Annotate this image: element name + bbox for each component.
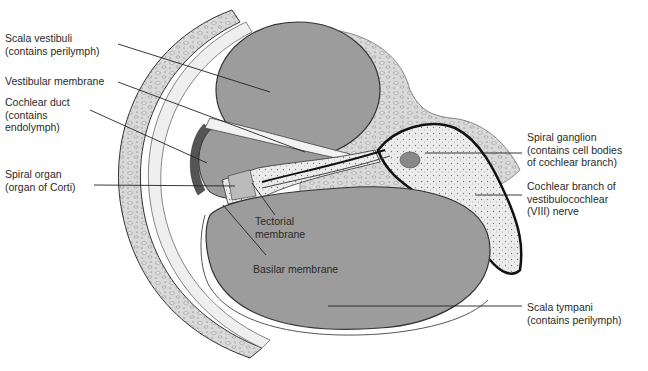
label-cochlear-branch: Cochlear branch of vestibulocochlear (VI… <box>527 180 616 218</box>
label-basilar-membrane-line1: Basilar membrane <box>253 263 338 276</box>
label-spiral-organ-line2: (organ of Corti) <box>5 181 76 194</box>
label-cochlear-duct-line3: endolymph) <box>5 121 70 134</box>
label-spiral-ganglion-line2: (contains cell bodies <box>527 144 622 157</box>
label-cochlear-branch-line2: vestibulocochlear <box>527 193 616 206</box>
label-cochlear-duct: Cochlear duct (contains endolymph) <box>5 96 70 134</box>
label-cochlear-branch-line3: (VIII) nerve <box>527 205 616 218</box>
label-scala-vestibuli-line1: Scala vestibuli <box>5 32 100 45</box>
label-cochlear-branch-line1: Cochlear branch of <box>527 180 616 193</box>
label-tectorial-membrane-line1: Tectorial <box>255 215 305 228</box>
label-spiral-organ: Spiral organ (organ of Corti) <box>5 168 76 193</box>
label-tectorial-membrane-line2: membrane <box>255 228 305 241</box>
label-spiral-ganglion: Spiral ganglion (contains cell bodies of… <box>527 131 622 169</box>
label-scala-vestibuli: Scala vestibuli (contains perilymph) <box>5 32 100 57</box>
label-scala-tympani-line2: (contains perilymph) <box>527 314 622 327</box>
label-cochlear-duct-line1: Cochlear duct <box>5 96 70 109</box>
label-vestibular-membrane-line1: Vestibular membrane <box>5 75 104 88</box>
label-scala-tympani-line1: Scala tympani <box>527 301 622 314</box>
label-tectorial-membrane: Tectorial membrane <box>255 215 305 240</box>
label-spiral-ganglion-line1: Spiral ganglion <box>527 131 622 144</box>
label-basilar-membrane: Basilar membrane <box>253 263 338 276</box>
label-scala-vestibuli-line2: (contains perilymph) <box>5 45 100 58</box>
scala-tympani-shape <box>206 187 490 330</box>
label-spiral-organ-line1: Spiral organ <box>5 168 76 181</box>
label-cochlear-duct-line2: (contains <box>5 109 70 122</box>
label-spiral-ganglion-line3: of cochlear branch) <box>527 156 622 169</box>
label-vestibular-membrane: Vestibular membrane <box>5 75 104 88</box>
label-scala-tympani: Scala tympani (contains perilymph) <box>527 301 622 326</box>
